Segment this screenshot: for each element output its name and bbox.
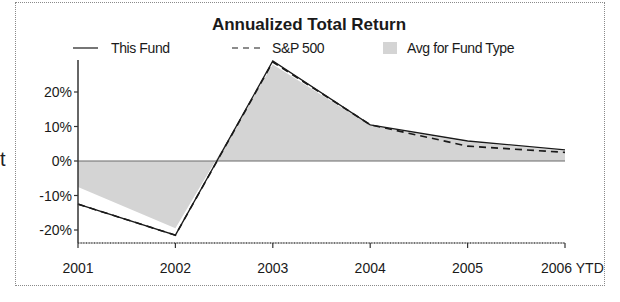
- x-tick-label: 2001: [62, 260, 93, 276]
- legend: This Fund S&P 500 Avg for Fund Type: [73, 40, 515, 56]
- legend-avg-fund-type: Avg for Fund Type: [407, 40, 515, 56]
- shaded-area-legend-icon: [383, 42, 397, 54]
- chart-title: Annualized Total Return: [212, 15, 406, 34]
- y-tick-label: -10%: [39, 188, 72, 204]
- y-tick-label: -20%: [39, 222, 72, 238]
- x-tick-label: 2004: [355, 260, 386, 276]
- x-tick-label: 2005: [452, 260, 483, 276]
- y-tick-label: 20%: [44, 84, 72, 100]
- legend-this-fund: This Fund: [111, 40, 170, 56]
- x-tick-label: 2003: [257, 260, 288, 276]
- y-tick-label: 0%: [52, 153, 72, 169]
- legend-sp500: S&P 500: [272, 40, 325, 56]
- plot-area: [78, 61, 565, 235]
- avg-fund-type-area: [78, 64, 565, 228]
- x-tick-label: 2006 YTD: [541, 260, 604, 276]
- annualized-return-chart: Annualized Total Return This Fund S&P 50…: [0, 0, 620, 302]
- y-tick-label: 10%: [44, 119, 72, 135]
- x-tick-label: 2002: [160, 260, 191, 276]
